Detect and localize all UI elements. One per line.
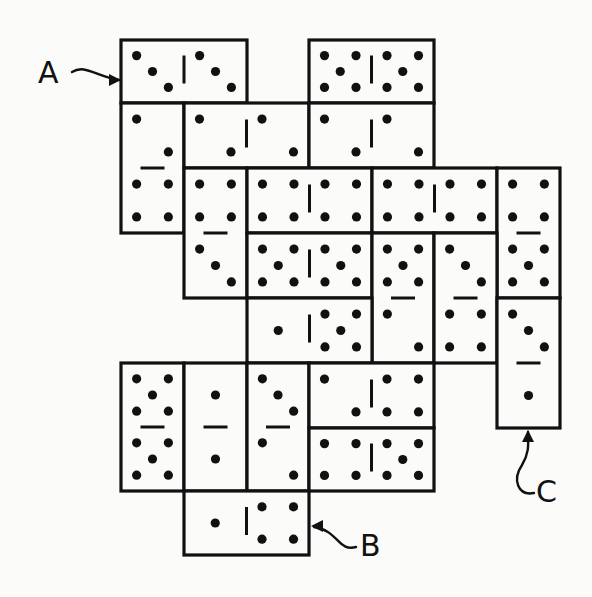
domino xyxy=(247,168,372,233)
pip xyxy=(320,277,329,286)
pip xyxy=(383,245,392,254)
pip xyxy=(132,180,141,189)
domino xyxy=(372,168,497,233)
pip xyxy=(320,83,329,92)
pip xyxy=(132,471,141,480)
pip xyxy=(383,277,392,286)
pip xyxy=(289,245,298,254)
pip xyxy=(164,180,173,189)
pip xyxy=(132,51,141,60)
pip xyxy=(382,375,391,384)
pip xyxy=(258,212,267,221)
pip xyxy=(164,374,173,383)
domino xyxy=(121,103,184,233)
pip xyxy=(336,326,345,335)
pip xyxy=(477,310,486,319)
domino-C xyxy=(497,298,560,428)
pip xyxy=(540,342,549,351)
pip xyxy=(336,67,345,76)
pip xyxy=(540,212,549,221)
pip xyxy=(320,115,329,124)
pip xyxy=(227,212,236,221)
pip xyxy=(164,212,173,221)
pip xyxy=(211,454,220,463)
pip xyxy=(320,51,329,60)
pip xyxy=(398,261,407,270)
pip xyxy=(508,245,517,254)
pip xyxy=(258,245,267,254)
pip xyxy=(398,455,407,464)
pip xyxy=(258,180,267,189)
pip xyxy=(164,438,173,447)
pip xyxy=(289,407,298,416)
pip xyxy=(320,375,329,384)
pip xyxy=(352,277,361,286)
pip xyxy=(211,390,220,399)
pip xyxy=(414,471,423,480)
pip xyxy=(540,180,549,189)
pip xyxy=(383,180,392,189)
pip xyxy=(132,374,141,383)
pip xyxy=(414,83,423,92)
pip xyxy=(508,310,517,319)
domino xyxy=(434,233,497,363)
pip xyxy=(445,212,454,221)
domino xyxy=(247,363,309,491)
domino-B xyxy=(184,491,309,555)
domino xyxy=(309,363,434,428)
pip xyxy=(540,245,549,254)
pip xyxy=(445,180,454,189)
pip xyxy=(211,67,220,76)
pip xyxy=(508,180,517,189)
pip xyxy=(289,471,298,480)
pip xyxy=(164,83,173,92)
pip xyxy=(258,277,267,286)
pip xyxy=(227,277,236,286)
pip xyxy=(382,83,391,92)
pip xyxy=(195,51,204,60)
pip xyxy=(257,535,266,544)
pip xyxy=(195,245,204,254)
pip xyxy=(320,245,329,254)
pip xyxy=(382,407,391,416)
pip xyxy=(445,342,454,351)
pip xyxy=(257,115,266,124)
pip xyxy=(382,115,391,124)
pip xyxy=(258,438,267,447)
domino-puzzle-diagram: ABC xyxy=(0,0,592,597)
pip xyxy=(414,180,423,189)
pip xyxy=(382,51,391,60)
pip xyxy=(383,310,392,319)
arrowhead-icon xyxy=(109,74,121,86)
pip xyxy=(445,310,454,319)
pip xyxy=(258,374,267,383)
pip xyxy=(382,439,391,448)
pip xyxy=(351,471,360,480)
pip xyxy=(351,147,360,156)
domino-A xyxy=(121,40,247,103)
pip xyxy=(289,147,298,156)
domino xyxy=(372,233,434,363)
pip xyxy=(195,180,204,189)
pip xyxy=(352,180,361,189)
pip xyxy=(289,535,298,544)
pip xyxy=(382,471,391,480)
pip xyxy=(320,212,329,221)
pip xyxy=(414,342,423,351)
pip xyxy=(477,180,486,189)
domino xyxy=(309,40,434,103)
pip xyxy=(320,471,329,480)
pip xyxy=(351,407,360,416)
pip xyxy=(320,310,329,319)
pip xyxy=(477,342,486,351)
callout-label: A xyxy=(38,55,59,90)
pip xyxy=(132,438,141,447)
pip xyxy=(132,115,141,124)
pip xyxy=(274,326,283,335)
pip xyxy=(352,342,361,351)
pip xyxy=(132,407,141,416)
domino xyxy=(497,168,560,298)
domino xyxy=(247,298,372,363)
pip xyxy=(148,67,157,76)
pip xyxy=(226,147,235,156)
